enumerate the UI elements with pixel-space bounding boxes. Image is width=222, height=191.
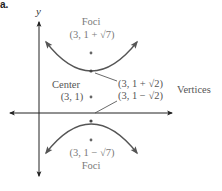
vertices-title: Vertices <box>177 84 211 95</box>
leader-vertex-top <box>95 73 117 81</box>
center-point <box>90 96 93 99</box>
foci-bottom-title: Foci <box>82 160 101 171</box>
leader-vertex-bottom <box>95 101 117 113</box>
y-axis-label: y <box>35 5 41 17</box>
hyperbola-upper-branch <box>46 42 137 71</box>
vertex-top-point <box>89 69 92 72</box>
center-title: Center <box>52 79 80 90</box>
vertex-bottom-coord: (3, 1 − √2) <box>118 90 163 102</box>
focus-bottom-point <box>90 139 93 142</box>
vertex-bottom-point <box>89 119 92 122</box>
center-coord: (3, 1) <box>61 91 84 103</box>
part-label: a. <box>0 0 9 10</box>
foci-top-coord: (3, 1 + √7) <box>70 29 115 41</box>
foci-top-title: Foci <box>82 16 101 27</box>
vertex-top-coord: (3, 1 + √2) <box>118 78 163 90</box>
hyperbola-diagram: a. y Foci (3, 1 + √7) Center (3, 1) (3, … <box>0 0 222 191</box>
foci-bottom-coord: (3, 1 − √7) <box>70 147 115 159</box>
focus-top-point <box>90 52 93 55</box>
